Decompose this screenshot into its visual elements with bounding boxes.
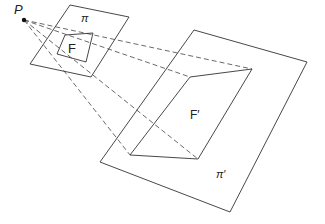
figure-label-F-prime: F′: [190, 108, 200, 122]
center-of-projection-point: [22, 18, 26, 22]
figure-label-F: F: [68, 41, 76, 56]
figures: [57, 33, 252, 159]
projection-rays: [24, 20, 252, 159]
center-of-projection-label: P: [14, 2, 23, 17]
projection-ray: [24, 20, 252, 69]
plane-pi-prime: [100, 30, 307, 212]
plane-label-pi-prime: π′: [216, 168, 226, 180]
plane-pi: [30, 5, 129, 77]
projection-ray: [24, 20, 198, 159]
plane-label-pi: π: [81, 12, 89, 24]
perspective-projection-diagram: P ππ′FF′: [0, 0, 325, 224]
